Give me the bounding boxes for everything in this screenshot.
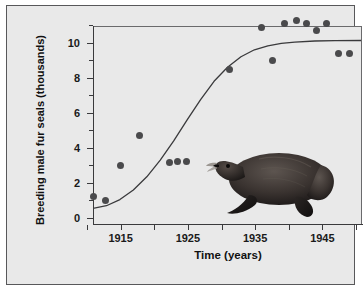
y-tick-label: 4 xyxy=(54,143,80,153)
y-tick xyxy=(87,43,93,44)
x-tick-label: 1925 xyxy=(168,232,208,244)
y-tick xyxy=(87,183,93,184)
x-tick-label: 1915 xyxy=(101,232,141,244)
x-tick xyxy=(356,225,357,230)
y-tick xyxy=(89,60,93,61)
y-tick xyxy=(89,25,93,26)
data-point xyxy=(117,162,124,169)
x-tick xyxy=(188,225,189,230)
y-tick-label: 10 xyxy=(54,38,80,48)
x-tick xyxy=(154,225,155,230)
x-tick xyxy=(255,225,256,230)
y-tick xyxy=(87,218,93,219)
y-tick xyxy=(87,148,93,149)
y-tick-label: 2 xyxy=(54,178,80,188)
y-tick xyxy=(89,200,93,201)
x-tick-label: 1945 xyxy=(302,232,342,244)
y-tick xyxy=(89,165,93,166)
x-tick xyxy=(322,225,323,230)
y-tick-label: 6 xyxy=(54,108,80,118)
y-tick-label: 0 xyxy=(54,213,80,223)
data-point xyxy=(303,20,310,27)
y-tick xyxy=(89,130,93,131)
data-point xyxy=(346,50,353,57)
plot-area xyxy=(93,26,362,224)
data-point xyxy=(293,17,300,24)
y-tick-label: 8 xyxy=(54,73,80,83)
fur-seal-illustration xyxy=(203,135,339,223)
data-point xyxy=(269,57,276,64)
data-point xyxy=(258,24,265,31)
y-tick xyxy=(87,113,93,114)
x-tick xyxy=(121,225,122,230)
data-point xyxy=(226,66,233,73)
x-axis-title: Time (years) xyxy=(93,249,363,261)
data-point xyxy=(166,159,173,166)
data-point xyxy=(335,50,342,57)
x-tick xyxy=(87,225,88,230)
y-axis-title: Breeding male fur seals (thousands) xyxy=(34,25,46,235)
x-tick xyxy=(222,225,223,230)
data-point xyxy=(323,20,330,27)
figure-frame: 02468101915192519351945 Breeding male fu… xyxy=(6,5,355,285)
x-tick xyxy=(289,225,290,230)
x-tick-label: 1935 xyxy=(235,232,275,244)
y-tick xyxy=(87,78,93,79)
figure: 02468101915192519351945 Breeding male fu… xyxy=(0,0,364,293)
y-tick xyxy=(89,95,93,96)
